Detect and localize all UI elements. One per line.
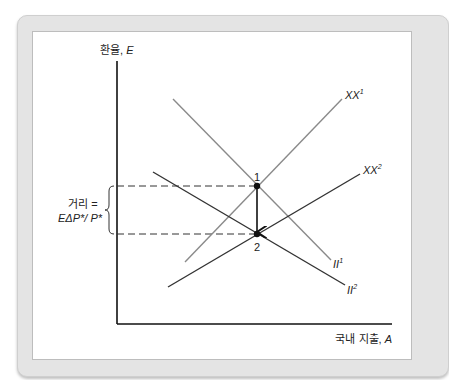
curve-ii1 xyxy=(173,99,331,260)
y-axis-label: 환율, E xyxy=(100,44,134,56)
curve-ii2 xyxy=(153,172,345,285)
equilibrium-point-2 xyxy=(254,231,260,237)
ii1-label: II1 xyxy=(333,257,343,270)
distance-label-line1: 거리 = xyxy=(68,198,97,210)
xx2-label: XX2 xyxy=(362,163,382,176)
x-axis-label: 국내 지출, A xyxy=(335,333,392,345)
equilibrium-point-1 xyxy=(254,183,260,189)
xx1-label: XX1 xyxy=(344,88,364,101)
point-1-label: 1 xyxy=(254,171,260,183)
point-2-label: 2 xyxy=(254,241,260,253)
ii2-label: II2 xyxy=(347,283,357,296)
distance-label-line2: EΔP*/ P* xyxy=(58,212,103,224)
distance-brace-icon xyxy=(105,186,114,234)
